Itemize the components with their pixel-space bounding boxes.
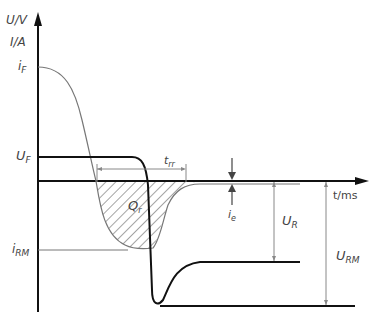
y-axis-arrow-icon — [34, 12, 42, 26]
x-axis-arrow-icon — [355, 177, 369, 185]
urm-arrow-top-icon — [324, 182, 328, 187]
ie-arrow-down-icon — [228, 172, 236, 180]
label-ie: ie — [228, 208, 236, 223]
urm-arrow-bottom-icon — [324, 300, 328, 305]
label-trr: trr — [164, 154, 176, 169]
label-if: iF — [18, 59, 27, 75]
trr-arrow-left-icon — [97, 167, 102, 171]
x-axis-label: t/ms — [333, 189, 358, 202]
reverse-recovery-diagram: U/V I/A t/ms iF UF iRM trr Qr ie UR URM — [0, 0, 380, 320]
trr-arrow-right-icon — [181, 167, 186, 171]
qr-hatched-area — [96, 181, 195, 249]
label-urm: URM — [336, 248, 360, 265]
label-ur: UR — [282, 213, 298, 230]
y-axis-label-voltage: U/V — [6, 13, 28, 27]
y-axis-label-current: I/A — [10, 35, 26, 49]
ie-arrow-up-icon — [228, 184, 236, 192]
label-irm: iRM — [12, 242, 30, 258]
ur-arrow-bottom-icon — [272, 256, 276, 261]
label-uf: UF — [16, 148, 32, 165]
voltage-curve — [38, 157, 300, 303]
